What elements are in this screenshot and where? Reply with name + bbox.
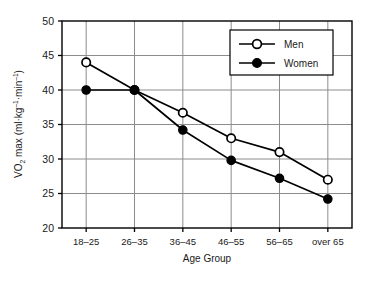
x-category-label: 56–65 (266, 236, 292, 247)
y-tick-label: 20 (42, 222, 54, 234)
x-category-label: 36–45 (170, 236, 196, 247)
data-point (82, 86, 90, 94)
chart-canvas: 50454035302520 18–2526–3536–4546–5556–65… (0, 0, 375, 282)
data-point (227, 156, 235, 164)
y-tick-label: 25 (42, 187, 54, 199)
data-point (275, 148, 283, 156)
data-point (324, 195, 332, 203)
x-axis-title: Age Group (183, 253, 232, 264)
y-tick-label: 45 (42, 49, 54, 61)
chart-legend: MenWomen (230, 30, 333, 75)
x-category-label: 46–55 (218, 236, 244, 247)
data-point (179, 126, 187, 134)
data-point (130, 86, 138, 94)
vo2max-line-chart: 50454035302520 18–2526–3536–4546–5556–65… (0, 0, 375, 282)
legend-marker-open-circle-icon (253, 40, 262, 49)
legend-label: Men (284, 39, 303, 50)
legend-label: Women (284, 58, 318, 69)
y-tick-label: 30 (42, 153, 54, 165)
data-point (82, 58, 90, 66)
x-category-label: 26–35 (121, 236, 147, 247)
data-point (227, 134, 235, 142)
x-category-label: over 65 (312, 236, 344, 247)
y-tick-label: 40 (42, 84, 54, 96)
data-point (275, 174, 283, 182)
y-tick-label: 35 (42, 118, 54, 130)
data-point (324, 176, 332, 184)
data-point (179, 109, 187, 117)
legend-marker-filled-circle-icon (253, 59, 262, 68)
y-tick-label: 50 (42, 15, 54, 27)
x-category-label: 18–25 (73, 236, 99, 247)
